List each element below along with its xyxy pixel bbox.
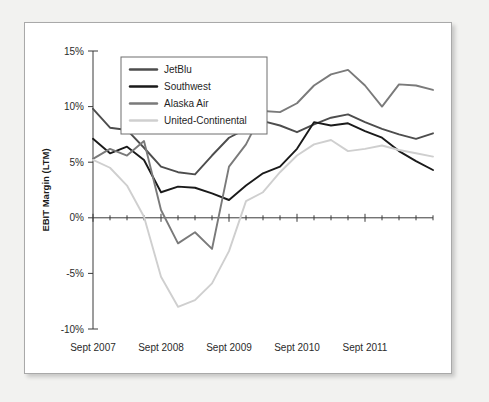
y-tick-label: -5%	[66, 268, 84, 279]
series-line-united-continental	[93, 140, 433, 307]
x-tick-label: Sept 2009	[206, 342, 252, 353]
x-axis-ticks: Sept 2007Sept 2008Sept 2009Sept 2010Sept…	[70, 214, 388, 353]
x-tick-label: Sept 2011	[343, 342, 388, 353]
y-tick-label: 0%	[70, 212, 85, 223]
ebit-margin-line-chart: 15%10%5%0%-5%-10% Sept 2007Sept 2008Sept…	[25, 23, 451, 373]
legend-label-southwest: Southwest	[164, 81, 211, 92]
y-tick-label: 5%	[70, 157, 85, 168]
y-tick-label: 15%	[64, 46, 84, 57]
y-axis-title: EBIT Margin (LTM)	[40, 148, 51, 231]
chart-legend: JetBluSouthwestAlaska AirUnited-Continen…	[121, 57, 267, 134]
y-tick-label: 10%	[64, 101, 84, 112]
y-axis-ticks: 15%10%5%0%-5%-10%	[61, 46, 98, 335]
x-tick-label: Sept 2008	[138, 342, 184, 353]
legend-label-united-continental: United-Continental	[164, 115, 247, 126]
chart-figure: 15%10%5%0%-5%-10% Sept 2007Sept 2008Sept…	[24, 22, 452, 374]
y-tick-label: -10%	[61, 324, 84, 335]
x-tick-label: Sept 2007	[70, 342, 116, 353]
legend-label-jetblu: JetBlu	[164, 64, 192, 75]
x-tick-label: Sept 2010	[274, 342, 320, 353]
legend-label-alaska-air: Alaska Air	[164, 98, 209, 109]
